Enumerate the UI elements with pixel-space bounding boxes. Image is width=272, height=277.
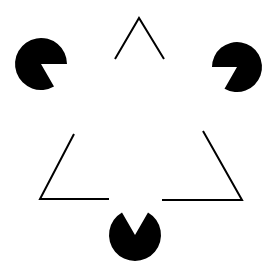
- kanizsa-figure: [0, 0, 272, 277]
